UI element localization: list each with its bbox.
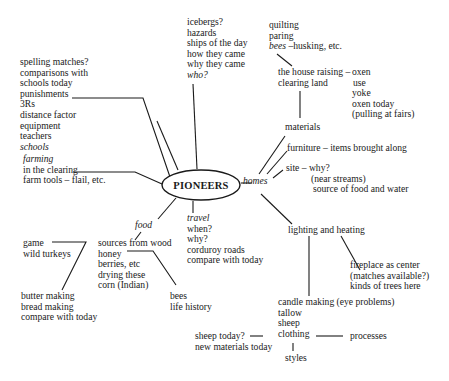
travel-label: travel	[187, 213, 263, 224]
who-node: icebergs? hazards ships of the day how t…	[187, 17, 248, 81]
homes-label: homes	[243, 176, 268, 187]
fireplace-node: fireplace as center (matches available?)…	[350, 260, 429, 292]
food-source-item: corn (Indian)	[98, 280, 172, 291]
candle-item: candle making (eye problems)	[278, 297, 394, 308]
site-item: source of food and water	[286, 184, 408, 195]
schools-item: spelling matches?	[20, 57, 88, 68]
social-item: quilting	[269, 20, 342, 31]
central-topic-label: PIONEERS	[161, 169, 241, 201]
site-node: site – why? (near streams) source of foo…	[286, 163, 408, 195]
sheep-today-node: sheep today? new materials today	[195, 331, 272, 352]
bees-rest: –husking, etc.	[286, 40, 342, 51]
game-item: game	[23, 238, 71, 249]
materials-label: materials	[285, 122, 320, 133]
who-label: who?	[187, 70, 248, 81]
furniture-label: furniture – items brought along	[287, 143, 407, 154]
sheep-today-item: new materials today	[195, 342, 272, 353]
bees-node: bees life history	[170, 291, 212, 312]
bees-item: life history	[170, 302, 212, 313]
farming-item: farm tools – flail, etc.	[23, 175, 106, 186]
farming-node: farming in the clearing farm tools – fla…	[23, 154, 106, 186]
travel-node: travel when? why? corduroy roads compare…	[187, 213, 263, 266]
lighting-node: lighting and heating	[288, 225, 365, 236]
butter-making-node: butter making bread making compare with …	[21, 291, 97, 323]
fireplace-item: fireplace as center	[350, 260, 429, 271]
game-node: game wild turkeys	[23, 238, 71, 259]
game-item: wild turkeys	[23, 249, 71, 260]
house-item: the house raising –	[278, 67, 350, 78]
butter-item: butter making	[21, 291, 97, 302]
schools-item: distance factor	[20, 110, 88, 121]
pioneers-concept-map: PIONEERS spelling matches? comparisons w…	[0, 0, 449, 381]
processes-label: processes	[350, 331, 387, 342]
social-events-node: quilting paring bees –husking, etc.	[269, 20, 342, 52]
food-sources-node: sources from wood honey berries, etc dry…	[98, 238, 172, 291]
bees-label: bees	[269, 40, 286, 51]
bees-item: bees	[170, 291, 212, 302]
fireplace-item: kinds of trees here	[350, 281, 429, 292]
site-item: site – why?	[286, 163, 408, 174]
lighting-label: lighting and heating	[288, 225, 365, 236]
house-item: clearing land	[278, 78, 350, 89]
travel-item: compare with today	[187, 255, 263, 266]
central-topic-node[interactable]: PIONEERS	[161, 169, 241, 201]
materials-node: materials	[285, 122, 320, 133]
schools-label: schools	[20, 142, 88, 153]
food-label: food	[135, 220, 152, 231]
food-source-item: sources from wood	[98, 238, 172, 249]
who-item: icebergs?	[187, 17, 248, 28]
furniture-node: furniture – items brought along	[287, 143, 407, 154]
oxen-node: oxen use yoke oxen today (pulling at fai…	[352, 67, 414, 120]
oxen-item: (pulling at fairs)	[352, 109, 414, 120]
schools-node: spelling matches? comparisons with schoo…	[20, 57, 88, 152]
styles-label: styles	[285, 353, 307, 364]
farming-label: farming	[23, 154, 106, 165]
butter-item: compare with today	[21, 312, 97, 323]
sheep-today-item: sheep today?	[195, 331, 272, 342]
house-raising-node: the house raising – clearing land	[278, 67, 350, 88]
oxen-item: oxen	[352, 67, 414, 78]
